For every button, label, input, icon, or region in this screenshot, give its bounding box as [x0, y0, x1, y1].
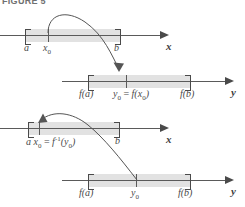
- axis-arrowhead: [225, 176, 234, 184]
- forward-map-arrowhead: [114, 63, 125, 73]
- label-b-line1: b: [114, 42, 119, 53]
- axis-arrowhead: [225, 77, 234, 85]
- axis-line: [0, 128, 163, 129]
- axis-arrowhead: [160, 124, 169, 132]
- label-fb-line2: f(b): [180, 88, 194, 99]
- axis-arrowhead: [160, 31, 169, 39]
- label-fb-line4: f(b): [178, 187, 192, 198]
- tick-y0: [136, 174, 137, 187]
- label-b-line3: b: [115, 135, 120, 146]
- label-a-line1: a: [24, 42, 29, 53]
- tick-y0: [126, 75, 127, 88]
- figure-caption: FIGURE 5: [2, 0, 46, 6]
- number-line-4-range-inverse: [0, 171, 245, 197]
- label-x0-line1: x0: [43, 42, 51, 56]
- label-a-x0-eq-finv-y0-line3: a x0 = f-1(y0): [26, 135, 75, 150]
- axis-line: [62, 81, 228, 82]
- axis-label-y-line4: y: [231, 185, 236, 197]
- label-y0-eq-fx0-line2: y0 = f(x0): [113, 88, 149, 102]
- figure-container: FIGURE 5 a x0 b x f(a) y0 = f(x0) f(b) y…: [0, 0, 245, 207]
- tick-x0: [39, 122, 40, 135]
- label-fa-line2: f(a): [79, 88, 93, 99]
- axis-label-x-line1: x: [166, 40, 172, 52]
- axis-label-x-line3: x: [166, 133, 172, 145]
- axis-label-y-line2: y: [231, 86, 236, 98]
- tick-x0: [48, 29, 49, 42]
- axis-line: [62, 180, 228, 181]
- label-y0-line4: y0: [131, 187, 139, 201]
- label-fa-line4: f(a): [79, 187, 93, 198]
